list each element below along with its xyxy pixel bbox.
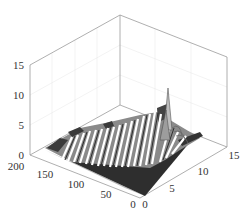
y-tick-10: 10 bbox=[198, 165, 210, 177]
x-tick-50: 50 bbox=[101, 188, 113, 200]
z-tick-15: 15 bbox=[13, 59, 25, 71]
y-tick-5: 5 bbox=[169, 182, 175, 194]
z-axis: 15 10 5 0 bbox=[13, 59, 25, 161]
y-tick-15: 15 bbox=[229, 149, 241, 161]
surface-plot: 15 10 5 0 200 150 100 50 0 0 5 10 15 bbox=[0, 0, 247, 219]
z-tick-10: 10 bbox=[13, 89, 25, 101]
x-tick-0: 0 bbox=[130, 198, 136, 210]
z-tick-5: 5 bbox=[19, 119, 25, 131]
x-tick-150: 150 bbox=[37, 168, 54, 180]
x-tick-200: 200 bbox=[8, 160, 25, 172]
y-tick-0: 0 bbox=[142, 198, 148, 210]
x-tick-100: 100 bbox=[68, 178, 85, 190]
